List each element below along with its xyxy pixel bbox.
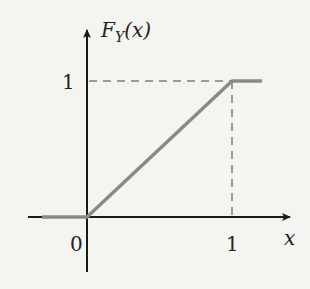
x-tick-0: 0 bbox=[70, 232, 83, 256]
cdf-chart: 1 0 1 x FY(x) bbox=[0, 0, 310, 289]
x-axis-label: x bbox=[284, 226, 295, 250]
y-tick-1: 1 bbox=[62, 70, 75, 94]
y-axis-label: FY(x) bbox=[100, 18, 151, 45]
cdf-line bbox=[42, 81, 262, 217]
chart-canvas: 1 0 1 x FY(x) bbox=[0, 0, 310, 289]
x-tick-1: 1 bbox=[226, 232, 239, 256]
